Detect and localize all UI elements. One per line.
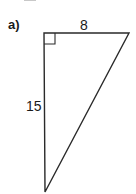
right-triangle-shape [0, 0, 136, 194]
triangle-figure: a) 8 15 [0, 0, 136, 194]
triangle-outline [44, 33, 129, 192]
right-angle-marker-icon [44, 33, 55, 44]
side-length-left: 15 [26, 99, 42, 113]
side-length-top: 8 [80, 18, 88, 32]
